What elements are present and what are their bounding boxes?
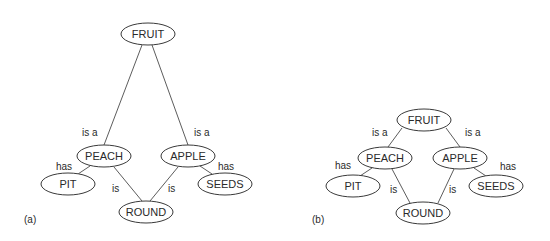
- semantic-network-b: is a is a has has is is FRUIT PEACH APPL…: [312, 109, 523, 225]
- panel-label-b: (b): [312, 214, 324, 225]
- edge-label-peach-round: is: [390, 184, 397, 195]
- node-seeds-a: SEEDS: [198, 173, 252, 195]
- edge-peach-fruit: [388, 128, 402, 147]
- edge-label-apple-fruit: is a: [194, 127, 210, 138]
- edge-label-peach-round: is: [112, 183, 119, 194]
- node-fruit-b: FRUIT: [397, 109, 451, 131]
- node-fruit-a: FRUIT: [121, 23, 175, 45]
- edge-label-apple-round: is: [449, 184, 456, 195]
- node-apple-b: APPLE: [433, 147, 487, 169]
- edge-peach-pit: [360, 168, 372, 176]
- node-peach-b: PEACH: [358, 147, 412, 169]
- node-apple-a: APPLE: [161, 145, 215, 167]
- edge-label-apple-seeds: has: [500, 161, 516, 172]
- semantic-network-a: is a is a has has is is FRUIT PEACH APPL…: [24, 23, 252, 225]
- node-label: PEACH: [85, 150, 123, 162]
- edge-apple-fruit: [446, 128, 460, 147]
- edge-peach-pit: [78, 166, 90, 174]
- edge-label-peach-pit: has: [335, 160, 351, 171]
- edge-label-peach-pit: has: [56, 161, 72, 172]
- edge-peach-fruit: [104, 45, 142, 145]
- node-seeds-b: SEEDS: [469, 175, 523, 197]
- node-round-a: ROUND: [119, 201, 173, 223]
- edge-label-apple-seeds: has: [218, 161, 234, 172]
- edge-label-apple-fruit: is a: [465, 127, 481, 138]
- panel-label-a: (a): [24, 214, 36, 225]
- edge-apple-seeds: [200, 166, 212, 174]
- edge-label-apple-round: is: [168, 183, 175, 194]
- node-label: FRUIT: [408, 114, 441, 126]
- edge-apple-seeds: [474, 168, 486, 176]
- node-label: APPLE: [442, 152, 477, 164]
- edge-label-peach-fruit: is a: [372, 127, 388, 138]
- node-peach-a: PEACH: [77, 145, 131, 167]
- node-label: APPLE: [170, 150, 205, 162]
- node-pit-a: PIT: [41, 173, 95, 195]
- node-label: PIT: [59, 178, 76, 190]
- edges-a: [78, 45, 212, 201]
- node-label: SEEDS: [206, 178, 243, 190]
- node-round-b: ROUND: [396, 202, 450, 224]
- node-label: FRUIT: [132, 28, 165, 40]
- node-label: ROUND: [403, 207, 443, 219]
- node-label: ROUND: [126, 206, 166, 218]
- node-pit-b: PIT: [326, 175, 380, 197]
- node-label: PIT: [344, 180, 361, 192]
- node-label: SEEDS: [477, 180, 514, 192]
- edge-label-peach-fruit: is a: [82, 127, 98, 138]
- node-label: PEACH: [366, 152, 404, 164]
- edge-apple-fruit: [152, 45, 188, 145]
